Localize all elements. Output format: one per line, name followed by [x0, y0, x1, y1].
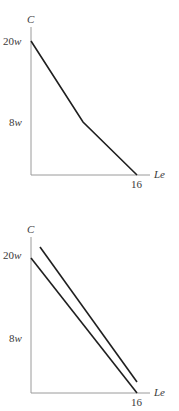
- y-tick-20w: 20w: [3, 35, 22, 47]
- top-diagram: C Le 20w 8w 16: [3, 13, 165, 190]
- kinked-budget-line: [31, 41, 137, 175]
- x-tick-16: 16: [131, 178, 143, 190]
- y-axis-label: C: [27, 223, 35, 235]
- x-tick-16: 16: [131, 396, 143, 408]
- y-tick-8w: 8w: [9, 116, 23, 128]
- y-axis-label: C: [27, 13, 35, 25]
- y-tick-20w: 20w: [3, 249, 22, 261]
- diagram-canvas: C Le 20w 8w 16 C Le 20w 8w 16: [0, 0, 179, 411]
- steeper-budget-line: [40, 247, 137, 382]
- x-axis-label: Le: [153, 386, 165, 398]
- y-tick-8w: 8w: [9, 332, 23, 344]
- x-axis-label: Le: [153, 168, 165, 180]
- original-budget-line: [31, 258, 137, 393]
- bottom-diagram: C Le 20w 8w 16: [3, 223, 165, 408]
